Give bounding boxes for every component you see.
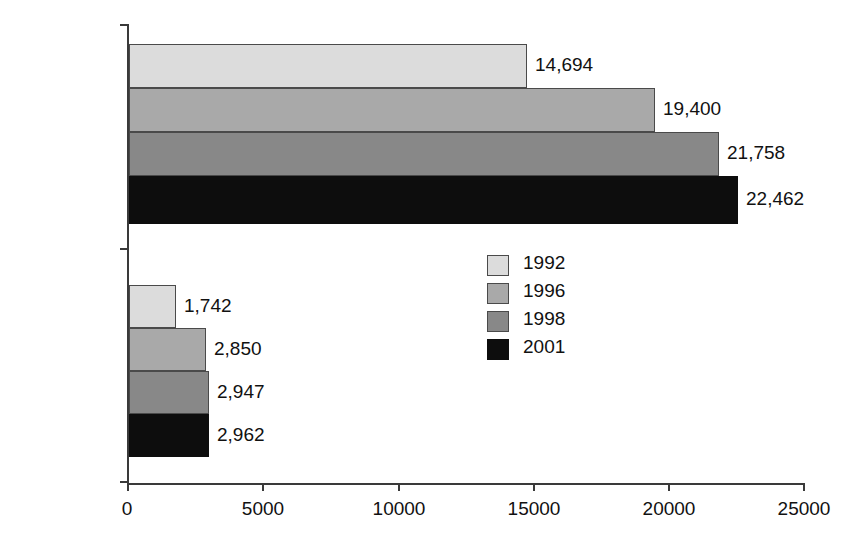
y-axis-tick-top [120, 24, 128, 26]
bar-part-time-2001[interactable] [129, 414, 209, 457]
legend-label-1998: 1998 [523, 308, 565, 330]
bar-value-part-time-2001: 2,962 [217, 424, 265, 446]
bar-chart: Full-time Part-time Paid 0 5000 10000 15… [0, 0, 853, 557]
bar-full-time-1998[interactable] [129, 132, 719, 176]
bar-part-time-1996[interactable] [129, 328, 206, 371]
chart-title [0, 0, 853, 7]
legend-swatch-2001 [487, 339, 509, 360]
x-axis-tick-10000 [398, 483, 400, 491]
x-axis-tick-5000 [262, 483, 264, 491]
bar-part-time-1998[interactable] [129, 371, 209, 414]
x-axis-tick-20000 [668, 483, 670, 491]
bar-value-part-time-1996: 2,850 [214, 338, 262, 360]
legend-label-1996: 1996 [523, 280, 565, 302]
bar-full-time-2001[interactable] [129, 176, 738, 224]
bar-value-full-time-1998: 21,758 [727, 142, 785, 164]
x-axis-label-0: 0 [122, 498, 133, 520]
x-axis-label-25000: 25000 [778, 498, 831, 520]
x-axis-tick-25000 [803, 483, 805, 491]
bar-value-full-time-1992: 14,694 [535, 54, 593, 76]
bar-value-full-time-2001: 22,462 [746, 188, 804, 210]
y-axis-tick-group-divider [120, 248, 128, 250]
bar-part-time-1992[interactable] [129, 285, 176, 328]
legend-swatch-1998 [487, 311, 509, 332]
bar-value-part-time-1998: 2,947 [217, 381, 265, 403]
x-axis-tick-0 [127, 483, 129, 491]
legend-label-1992: 1992 [523, 252, 565, 274]
legend-swatch-1992 [487, 255, 509, 276]
x-axis-label-15000: 15000 [508, 498, 561, 520]
plot-area: 0 5000 10000 15000 20000 25000 14,694 19… [127, 24, 804, 483]
bar-value-part-time-1992: 1,742 [184, 295, 232, 317]
bar-full-time-1996[interactable] [129, 88, 655, 132]
bar-value-full-time-1996: 19,400 [663, 98, 721, 120]
x-axis-line [127, 483, 804, 485]
legend-swatch-1996 [487, 283, 509, 304]
x-axis-label-10000: 10000 [373, 498, 426, 520]
x-axis-tick-15000 [533, 483, 535, 491]
x-axis-label-5000: 5000 [242, 498, 284, 520]
legend-label-2001: 2001 [523, 336, 565, 358]
bar-full-time-1992[interactable] [129, 44, 527, 88]
x-axis-label-20000: 20000 [643, 498, 696, 520]
